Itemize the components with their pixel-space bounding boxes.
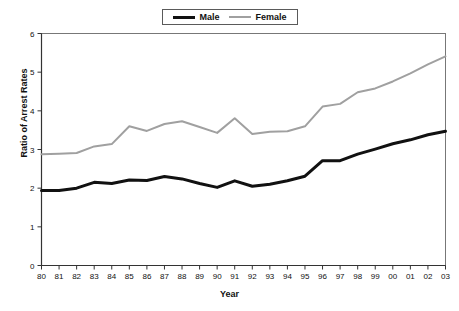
legend-item-female: Female <box>229 13 286 22</box>
y-tick-label: 0 <box>30 262 35 271</box>
x-tick-label: 98 <box>353 272 362 281</box>
x-tick-label: 01 <box>406 272 415 281</box>
y-tick-label: 1 <box>30 223 35 232</box>
y-tick-label: 3 <box>30 146 35 155</box>
x-tick-label: 85 <box>125 272 134 281</box>
x-axis-ticks: 8081828384858687888990919293949596979899… <box>37 266 450 281</box>
legend-label-male: Male <box>199 13 219 22</box>
chart-legend: Male Female <box>162 9 298 25</box>
x-axis-title: Year <box>0 289 459 299</box>
series-line-male <box>42 131 446 190</box>
legend-item-male: Male <box>173 13 219 22</box>
x-tick-label: 88 <box>178 272 187 281</box>
series-line-female <box>42 56 446 154</box>
x-tick-label: 82 <box>72 272 81 281</box>
x-tick-label: 97 <box>336 272 345 281</box>
x-tick-label: 00 <box>388 272 397 281</box>
x-tick-label: 93 <box>265 272 274 281</box>
x-tick-label: 87 <box>160 272 169 281</box>
x-tick-label: 90 <box>213 272 222 281</box>
x-tick-label: 99 <box>371 272 380 281</box>
x-tick-label: 86 <box>142 272 151 281</box>
y-tick-label: 5 <box>30 68 35 77</box>
x-tick-label: 89 <box>195 272 204 281</box>
data-series-group <box>42 56 446 190</box>
y-tick-label: 4 <box>30 107 35 116</box>
x-tick-label: 91 <box>230 272 239 281</box>
y-axis-title: Ratio of Arrest Rates <box>19 33 29 193</box>
legend-line-swatch-male <box>173 16 195 19</box>
plot-area: 0123456 80818283848586878889909192939495… <box>0 0 459 311</box>
axis-frame <box>42 34 446 266</box>
legend-label-female: Female <box>255 13 286 22</box>
y-axis-ticks: 0123456 <box>30 30 41 271</box>
x-tick-label: 95 <box>301 272 310 281</box>
x-tick-label: 92 <box>248 272 257 281</box>
x-tick-label: 84 <box>107 272 116 281</box>
x-tick-label: 96 <box>318 272 327 281</box>
x-tick-label: 83 <box>90 272 99 281</box>
x-tick-label: 03 <box>441 272 450 281</box>
chart-figure: Male Female Ratio of Arrest Rates Year 0… <box>0 0 459 311</box>
y-tick-label: 6 <box>30 30 35 39</box>
x-tick-label: 81 <box>55 272 64 281</box>
x-tick-label: 02 <box>423 272 432 281</box>
x-tick-label: 94 <box>283 272 292 281</box>
y-tick-label: 2 <box>30 184 35 193</box>
legend-line-swatch-female <box>229 16 251 18</box>
x-tick-label: 80 <box>37 272 46 281</box>
